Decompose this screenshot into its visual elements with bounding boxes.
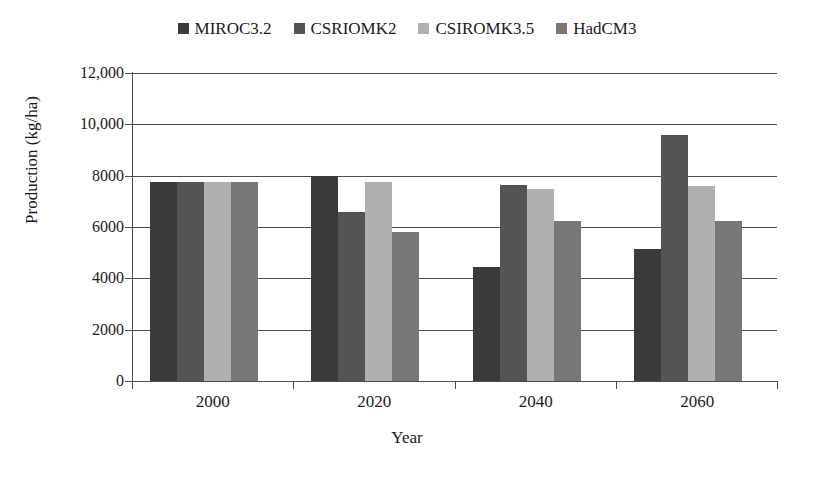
bar-group-2040 (455, 73, 616, 381)
bar-hadcm3-2040[interactable] (554, 221, 581, 381)
x-axis-ticks (132, 381, 778, 390)
bar-miroc3.2-2000[interactable] (150, 182, 177, 381)
x-axis-tick-label: 2000 (132, 392, 294, 418)
bar-miroc3.2-2020[interactable] (311, 176, 338, 381)
bar-chart: MIROC3.2CSRIOMK2CSIROMK3.5HadCM3 Product… (0, 0, 814, 482)
legend-item-hadcm3[interactable]: HadCM3 (556, 20, 636, 37)
bar-miroc3.2-2060[interactable] (634, 249, 661, 381)
bar-csiromk3.5-2040[interactable] (527, 189, 554, 382)
bar-csiromk3.5-2000[interactable] (204, 182, 231, 381)
plot-area (132, 73, 777, 381)
x-axis-tick (777, 381, 778, 389)
x-axis-labels: 2000202020402060 (132, 392, 778, 418)
y-axis-tick-label: 8000 (92, 168, 124, 184)
bar-group-2060 (616, 73, 777, 381)
x-axis-tick-label: 2020 (294, 392, 456, 418)
x-axis-tick (455, 381, 456, 389)
legend-label: MIROC3.2 (195, 20, 272, 37)
y-axis-tick-label: 0 (116, 373, 124, 389)
legend-swatch-icon (418, 23, 429, 34)
y-axis-tick-label: 6000 (92, 219, 124, 235)
legend-swatch-icon (178, 23, 189, 34)
y-axis-tick (125, 227, 132, 228)
x-axis-tick-label: 2040 (455, 392, 617, 418)
y-axis-tick-label: 12,000 (80, 65, 124, 81)
legend-label: HadCM3 (573, 20, 636, 37)
bar-group-2000 (132, 73, 293, 381)
legend-item-csriomk2[interactable]: CSRIOMK2 (294, 20, 397, 37)
legend-label: CSRIOMK2 (311, 20, 397, 37)
y-axis-tick (125, 73, 132, 74)
x-axis-tick (132, 381, 133, 389)
y-axis-tick (125, 124, 132, 125)
bars (455, 73, 616, 381)
chart-legend: MIROC3.2CSRIOMK2CSIROMK3.5HadCM3 (0, 20, 814, 37)
bars (616, 73, 777, 381)
y-axis-tick (125, 381, 132, 382)
y-axis-tick-label: 10,000 (80, 116, 124, 132)
y-axis-tick (125, 278, 132, 279)
bar-csriomk2-2000[interactable] (177, 182, 204, 381)
x-axis-title: Year (0, 428, 814, 448)
bar-miroc3.2-2040[interactable] (473, 267, 500, 381)
bar-csriomk2-2020[interactable] (338, 212, 365, 381)
legend-item-csiromk3.5[interactable]: CSIROMK3.5 (418, 20, 534, 37)
legend-swatch-icon (556, 23, 567, 34)
legend-swatch-icon (294, 23, 305, 34)
bar-csiromk3.5-2060[interactable] (688, 186, 715, 381)
bar-groups (132, 73, 777, 381)
y-axis-tick (125, 330, 132, 331)
bar-hadcm3-2000[interactable] (231, 182, 258, 381)
y-axis-tick (125, 176, 132, 177)
bar-csriomk2-2060[interactable] (661, 135, 688, 381)
x-axis-tick (293, 381, 294, 389)
bar-hadcm3-2060[interactable] (715, 221, 742, 381)
x-axis-tick-label: 2060 (617, 392, 779, 418)
y-axis-tick-label: 4000 (92, 270, 124, 286)
x-axis-tick (616, 381, 617, 389)
bar-csriomk2-2040[interactable] (500, 185, 527, 381)
bars (293, 73, 454, 381)
bar-group-2020 (293, 73, 454, 381)
legend-label: CSIROMK3.5 (435, 20, 534, 37)
bar-csiromk3.5-2020[interactable] (365, 182, 392, 381)
y-axis-title: Production (kg/ha) (22, 30, 42, 290)
y-axis-labels: 12,00010,00080006000400020000 (58, 73, 124, 381)
legend-item-miroc3.2[interactable]: MIROC3.2 (178, 20, 272, 37)
y-axis-tick-label: 2000 (92, 322, 124, 338)
bars (132, 73, 293, 381)
bar-hadcm3-2020[interactable] (392, 232, 419, 381)
